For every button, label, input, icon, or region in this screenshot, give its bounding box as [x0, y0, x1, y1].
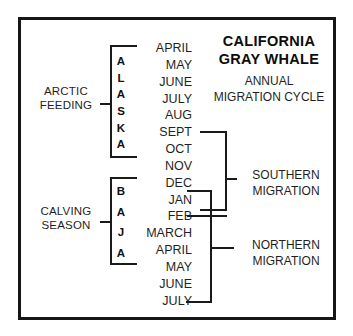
month-item: SEPT — [120, 124, 192, 141]
title-line-2: GRAY WHALE — [205, 51, 333, 69]
month-item: APRIL — [120, 40, 192, 57]
label-calving-season: CALVING SEASON — [26, 204, 106, 232]
month-item: DEC — [120, 175, 192, 192]
month-item: MARCH — [120, 225, 192, 242]
southern-bracket-top-arm — [200, 131, 227, 133]
southern-inner-top-arm — [187, 190, 212, 192]
month-list: APRIL MAY JUNE JULY AUG SEPT OCT NOV DEC… — [120, 40, 192, 310]
subtitle-line-2: MIGRATION CYCLE — [205, 90, 333, 106]
title-line-1: CALIFORNIA — [205, 33, 333, 51]
month-item: OCT — [120, 141, 192, 158]
alaska-bracket-spine — [110, 45, 112, 158]
southern-migration-line2: MIGRATION — [238, 184, 334, 200]
month-item: AUG — [120, 107, 192, 124]
northern-migration-line1: NORTHERN — [238, 238, 334, 254]
month-item: JUNE — [120, 276, 192, 293]
subtitle-line-1: ANNUAL — [205, 74, 333, 90]
month-item: JAN — [120, 192, 192, 209]
month-item: APRIL — [120, 242, 192, 259]
calving-season-line1: CALVING — [26, 204, 106, 218]
baja-bracket-spine — [110, 177, 112, 265]
northern-bracket-bottom-arm — [186, 301, 212, 303]
month-item: NOV — [120, 158, 192, 175]
arctic-feeding-line1: ARCTIC — [26, 84, 106, 98]
southern-inner-spine — [210, 190, 212, 217]
month-item: MAY — [120, 259, 192, 276]
month-item: JUNE — [120, 74, 192, 91]
northern-bracket-top-arm — [200, 215, 227, 217]
southern-bracket-spine — [225, 131, 227, 211]
diagram-title: CALIFORNIA GRAY WHALE ANNUAL MIGRATION C… — [205, 33, 333, 105]
migration-cycle-diagram: ARCTIC FEEDING CALVING SEASON A L A S K … — [0, 0, 353, 336]
southern-migration-line1: SOUTHERN — [238, 168, 334, 184]
month-item: JULY — [120, 293, 192, 310]
month-item: JULY — [120, 91, 192, 108]
month-item: FEB — [120, 208, 192, 225]
label-southern-migration: SOUTHERN MIGRATION — [238, 168, 334, 199]
southern-bracket-tick — [225, 178, 237, 180]
northern-migration-line2: MIGRATION — [238, 254, 334, 270]
label-arctic-feeding: ARCTIC FEEDING — [26, 84, 106, 112]
month-item: MAY — [120, 57, 192, 74]
calving-season-line2: SEASON — [26, 218, 106, 232]
northern-bracket-spine — [210, 215, 212, 303]
northern-bracket-tick — [210, 247, 234, 249]
label-northern-migration: NORTHERN MIGRATION — [238, 238, 334, 269]
arctic-feeding-line2: FEEDING — [26, 98, 106, 112]
southern-bracket-bottom-arm — [200, 209, 227, 211]
